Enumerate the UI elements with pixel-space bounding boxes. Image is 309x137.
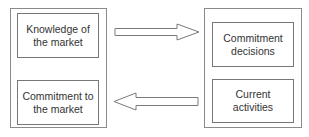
arrow-left-icon <box>114 93 198 110</box>
arrows-layer <box>0 0 309 137</box>
arrow-right-icon <box>115 24 199 40</box>
